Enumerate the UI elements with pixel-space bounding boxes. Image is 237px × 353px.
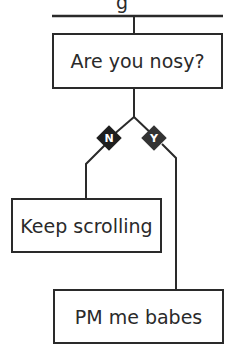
pm-me-text: PM me babes bbox=[75, 306, 202, 328]
keep-scrolling-text: Keep scrolling bbox=[20, 215, 152, 237]
question-text: Are you nosy? bbox=[71, 50, 205, 72]
keep-scrolling-box: Keep scrolling bbox=[11, 198, 162, 253]
yes-label: Y bbox=[142, 126, 166, 150]
no-label: N bbox=[97, 126, 121, 150]
pm-me-box: PM me babes bbox=[53, 289, 224, 344]
question-box: Are you nosy? bbox=[52, 33, 223, 89]
